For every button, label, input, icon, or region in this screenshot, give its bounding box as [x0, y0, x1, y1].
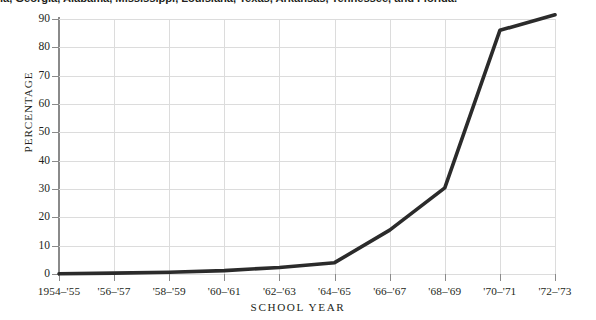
y-tick-label: 0: [20, 267, 50, 279]
y-axis-title: PERCENTAGE: [22, 52, 34, 172]
plot-area: [59, 19, 555, 274]
x-tick-mark: [59, 274, 60, 281]
gridline-horizontal: [59, 189, 555, 190]
chart-page: ia, Georgia, Alabama, Mississippi, Louis…: [0, 0, 596, 320]
gridline-horizontal: [59, 274, 555, 275]
x-tick-mark: [390, 274, 391, 281]
x-tick-mark: [555, 274, 556, 281]
y-tick-mark: [52, 104, 59, 105]
gridline-vertical: [224, 19, 225, 274]
x-tick-mark: [335, 274, 336, 281]
y-tick-mark: [52, 161, 59, 162]
y-tick-label: 80: [20, 40, 50, 52]
gridline-vertical: [279, 19, 280, 274]
y-tick-mark: [52, 47, 59, 48]
caption-strip: ia, Georgia, Alabama, Mississippi, Louis…: [0, 0, 596, 11]
gridline-vertical: [114, 19, 115, 274]
y-tick-label-wrap: 30: [14, 182, 50, 196]
x-tick-mark: [114, 274, 115, 281]
y-tick-mark: [52, 19, 59, 20]
y-tick-label-wrap: 10: [14, 239, 50, 253]
gridline-horizontal: [59, 217, 555, 218]
caption-text: ia, Georgia, Alabama, Mississippi, Louis…: [0, 0, 596, 4]
x-tick-mark: [445, 274, 446, 281]
y-tick-label: 10: [20, 239, 50, 251]
y-tick-label: 90: [20, 12, 50, 24]
gridline-horizontal: [59, 104, 555, 105]
y-tick-mark: [52, 274, 59, 275]
x-tick-mark: [500, 274, 501, 281]
x-tick-mark: [224, 274, 225, 281]
y-tick-mark: [52, 217, 59, 218]
gridline-vertical: [390, 19, 391, 274]
y-tick-label: 30: [20, 182, 50, 194]
gridline-vertical: [500, 19, 501, 274]
gridline-vertical: [169, 19, 170, 274]
y-tick-label-wrap: 20: [14, 210, 50, 224]
y-tick-mark: [52, 189, 59, 190]
gridline-vertical: [555, 19, 556, 274]
gridline-horizontal: [59, 47, 555, 48]
gridline-vertical: [445, 19, 446, 274]
x-tick-mark: [169, 274, 170, 281]
y-tick-label-wrap: 0: [14, 267, 50, 281]
gridline-vertical: [335, 19, 336, 274]
gridline-horizontal: [59, 161, 555, 162]
x-tick-mark: [279, 274, 280, 281]
gridline-horizontal: [59, 132, 555, 133]
y-tick-label-wrap: 90: [14, 12, 50, 26]
gridline-horizontal: [59, 76, 555, 77]
x-axis-title: SCHOOL YEAR: [0, 301, 596, 313]
x-tick-label: '72–'73: [517, 285, 593, 297]
gridline-horizontal: [59, 246, 555, 247]
y-tick-mark: [52, 246, 59, 247]
y-tick-mark: [52, 76, 59, 77]
y-tick-label: 20: [20, 210, 50, 222]
gridline-horizontal: [59, 19, 555, 20]
y-tick-mark: [52, 132, 59, 133]
